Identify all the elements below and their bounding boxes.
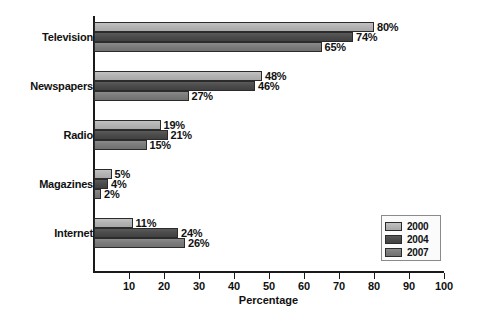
x-axis-tick (409, 273, 410, 279)
bar-radio-2007 (94, 140, 147, 150)
x-axis-tick-label: 100 (435, 280, 453, 292)
bar-internet-2007 (94, 238, 185, 248)
bar-value-label: 65% (325, 41, 346, 53)
x-axis-tick-label: 90 (403, 280, 415, 292)
x-axis-tick (199, 273, 200, 279)
x-axis-tick (269, 273, 270, 279)
legend-swatch-icon (385, 222, 402, 231)
category-label-radio: Radio (63, 129, 93, 141)
bar-newspapers-2000 (94, 71, 262, 81)
legend-item-2000[interactable]: 2000 (385, 220, 437, 232)
legend-label: 2000 (407, 221, 428, 232)
bar-value-label: 27% (192, 90, 213, 102)
bar-newspapers-2007 (94, 91, 189, 101)
category-label-television: Television (42, 31, 93, 43)
bar-magazines-2007 (94, 189, 101, 199)
x-axis-tick-label: 60 (298, 280, 310, 292)
x-axis-tick-label: 10 (123, 280, 135, 292)
bar-television-2007 (94, 42, 322, 52)
legend-label: 2004 (407, 234, 428, 245)
legend-swatch-icon (385, 235, 402, 244)
legend-swatch-icon (385, 248, 402, 257)
bar-chart: 102030405060708090100 TelevisionNewspape… (0, 0, 478, 321)
x-axis-tick-label: 40 (228, 280, 240, 292)
bar-internet-2004 (94, 228, 178, 238)
category-label-magazines: Magazines (39, 178, 93, 190)
x-axis-tick-label: 50 (263, 280, 275, 292)
legend-item-2007[interactable]: 2007 (385, 246, 437, 258)
x-axis-tick (234, 273, 235, 279)
x-axis-title: Percentage (93, 294, 444, 306)
x-axis-tick (444, 273, 445, 279)
bar-television-2004 (94, 32, 353, 42)
bar-internet-2000 (94, 218, 133, 228)
x-axis-tick-label: 70 (333, 280, 345, 292)
bar-value-label: 46% (258, 80, 279, 92)
x-axis-tick (339, 273, 340, 279)
bar-value-label: 15% (150, 139, 171, 151)
bar-radio-2000 (94, 120, 161, 130)
bar-value-label: 74% (356, 31, 377, 43)
x-axis-tick (129, 273, 130, 279)
category-label-internet: Internet (54, 227, 93, 239)
bar-newspapers-2004 (94, 81, 255, 91)
bar-value-label: 80% (377, 21, 398, 33)
chart-legend: 200020042007 (381, 215, 441, 261)
bar-value-label: 21% (171, 129, 192, 141)
bar-value-label: 2% (104, 188, 120, 200)
bar-magazines-2000 (94, 169, 112, 179)
category-label-newspapers: Newspapers (30, 80, 93, 92)
x-axis-tick (374, 273, 375, 279)
x-axis-tick (304, 273, 305, 279)
x-axis-tick-label: 20 (158, 280, 170, 292)
x-axis-tick-label: 30 (193, 280, 205, 292)
legend-label: 2007 (407, 247, 428, 258)
x-axis-tick-label: 80 (368, 280, 380, 292)
legend-item-2004[interactable]: 2004 (385, 233, 437, 245)
x-axis-tick (164, 273, 165, 279)
bar-television-2000 (94, 22, 374, 32)
bar-value-label: 26% (188, 237, 209, 249)
